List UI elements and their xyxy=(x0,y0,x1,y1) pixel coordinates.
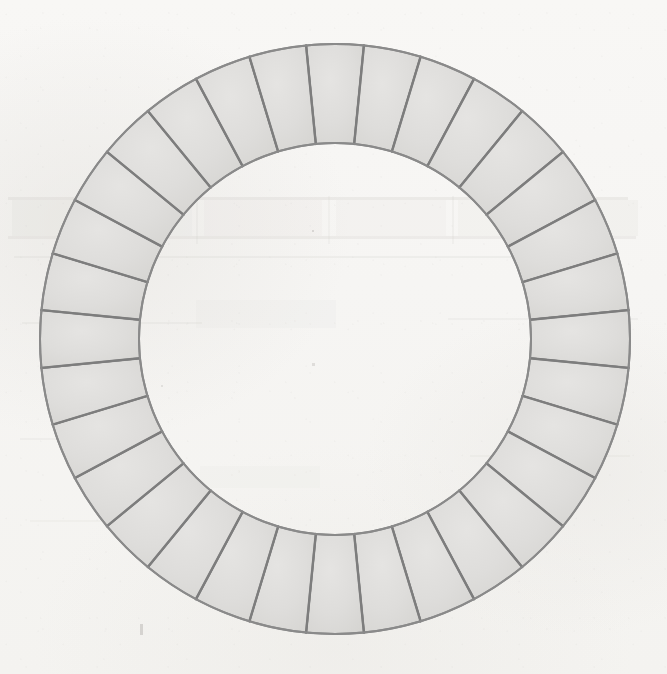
segmented-annulus-figure xyxy=(0,0,667,674)
annulus-segments xyxy=(40,44,630,634)
diagram-canvas xyxy=(0,0,667,674)
inner-boundary-circle xyxy=(139,143,531,535)
